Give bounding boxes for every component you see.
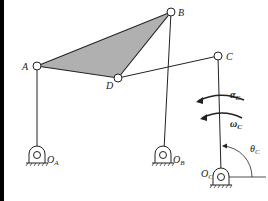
joint-D bbox=[114, 74, 122, 82]
label-omega: ωC bbox=[230, 118, 242, 131]
ground-pivot-OB bbox=[152, 146, 174, 166]
label-OA: OA bbox=[47, 154, 59, 167]
label-alpha: αC bbox=[230, 89, 241, 102]
label-OC: OC bbox=[201, 168, 213, 181]
label-theta: θC bbox=[250, 143, 260, 156]
label-B: B bbox=[178, 7, 184, 18]
link-OC-C bbox=[218, 56, 221, 172]
joint-B bbox=[167, 8, 175, 16]
label-D: D bbox=[105, 80, 114, 91]
joint-C bbox=[214, 52, 222, 60]
left-border bbox=[0, 0, 4, 201]
joint-A bbox=[33, 62, 41, 70]
label-C: C bbox=[226, 51, 233, 62]
ground-pivot-OC bbox=[210, 168, 232, 188]
ground-pivot-OA bbox=[26, 146, 48, 166]
label-A: A bbox=[21, 61, 29, 72]
label-OB: OB bbox=[173, 154, 185, 167]
linkage-diagram: A B C D OA OB OC αC ωC θC bbox=[0, 0, 268, 201]
coupler-triangle bbox=[37, 12, 171, 78]
link-OB-B bbox=[164, 12, 171, 150]
